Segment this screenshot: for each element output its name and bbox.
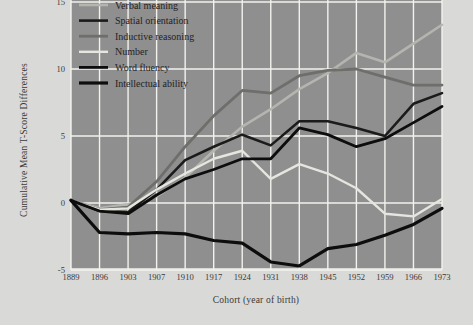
legend-label-number: Number — [115, 46, 148, 57]
x-tick-label: 1917 — [205, 272, 223, 282]
y-tick-label: 10 — [56, 64, 65, 74]
x-tick-label: 1938 — [291, 272, 308, 282]
legend-label-spatial-orientation: Spatial orientation — [115, 15, 189, 26]
x-tick-label: 1903 — [119, 272, 136, 282]
x-tick-label: 1896 — [91, 272, 109, 282]
x-tick-label: 1959 — [376, 272, 393, 282]
x-tick-label: 1931 — [262, 272, 279, 282]
y-tick-label: 0 — [61, 198, 65, 208]
legend-label-verbal-meaning: Verbal meaning — [115, 0, 178, 11]
y-tick-label: 15 — [56, 0, 65, 7]
chart-figure: 1889189619031907191019171924193119381945… — [0, 0, 473, 325]
legend-label-inductive-reasoning: Inductive reasoning — [115, 31, 194, 42]
y-tick-label: 5 — [61, 131, 65, 141]
x-tick-label: 1966 — [405, 272, 423, 282]
x-tick-label: 1910 — [177, 272, 194, 282]
x-axis-label: Cohort (year of birth) — [213, 295, 299, 306]
x-tick-label: 1945 — [319, 272, 336, 282]
y-axis-label: Cumulative Mean T-Score Differences — [19, 63, 29, 217]
line-chart: 1889189619031907191019171924193119381945… — [0, 0, 473, 325]
x-tick-label: 1952 — [348, 272, 365, 282]
y-tick-label: -5 — [58, 265, 65, 275]
x-tick-label: 1973 — [433, 272, 450, 282]
x-tick-label: 1924 — [234, 272, 252, 282]
x-tick-label: 1907 — [148, 272, 166, 282]
legend-label-intellectual-ability: Intellectual ability — [115, 78, 188, 89]
legend-label-word-fluency: Word fluency — [115, 62, 169, 73]
